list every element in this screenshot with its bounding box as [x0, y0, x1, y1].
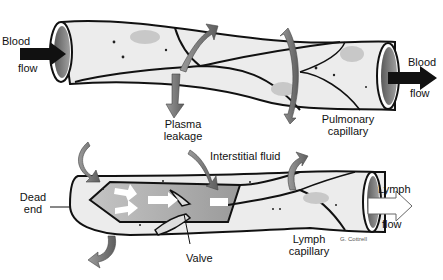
blood-flow-out-label-2: flow: [410, 87, 430, 100]
capillary-diagram: [0, 0, 443, 280]
artist-signature: G. Cottrell: [340, 236, 367, 242]
blood-flow-in-label-1: Blood: [2, 35, 30, 48]
pulmonary-capillary: [20, 21, 437, 124]
lymph-flow-label-1: Lymph: [378, 183, 411, 196]
dead-end-label-2: end: [16, 203, 50, 216]
lymph-capillary-label-2: capillary: [286, 245, 332, 258]
interstitial-arrow-icon-4: [88, 236, 116, 268]
lymph-flow-label-2: flow: [382, 218, 402, 231]
pulmonary-capillary-label-2: capillary: [318, 125, 378, 138]
valve-label: Valve: [186, 252, 213, 265]
plasma-leakage-label-2: leakage: [158, 130, 208, 143]
interstitial-fluid-label: Interstitial fluid: [210, 150, 280, 163]
blood-flow-out-label-1: Blood: [408, 56, 436, 69]
blood-flow-in-label-2: flow: [18, 62, 38, 75]
